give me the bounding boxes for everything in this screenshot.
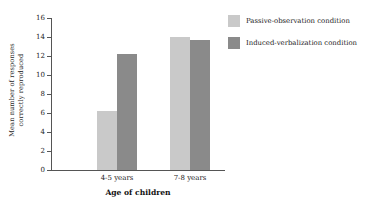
y-tick-label: 6 — [41, 109, 45, 117]
x-tick-label: 7-8 years — [174, 174, 207, 182]
y-tick-label: 0 — [41, 166, 45, 174]
legend-item[interactable]: Passive-observation condition — [228, 14, 376, 27]
y-tick-label: 2 — [41, 147, 45, 155]
y-tick-label: 16 — [36, 14, 45, 22]
y-tick-mark — [47, 75, 51, 76]
bar — [170, 37, 190, 170]
y-tick-label: 12 — [36, 52, 45, 60]
bar — [117, 54, 137, 170]
legend-swatch — [228, 15, 240, 27]
y-tick-mark — [47, 151, 51, 152]
x-axis-line — [51, 170, 225, 171]
y-tick-mark — [47, 132, 51, 133]
legend-item[interactable]: Induced-verbalization condition — [228, 36, 376, 49]
y-tick-mark — [47, 18, 51, 19]
bar — [97, 111, 117, 170]
y-axis-line — [51, 18, 52, 170]
y-tick-label: 14 — [36, 33, 45, 41]
legend-swatch — [228, 37, 240, 49]
y-tick-label: 8 — [41, 90, 45, 98]
y-axis-title-line-2: correctly reproduced — [17, 43, 26, 137]
y-tick-mark — [47, 113, 51, 114]
y-axis-title: Mean number of responses correctly repro… — [0, 0, 34, 180]
y-tick-mark — [47, 37, 51, 38]
y-tick-mark — [47, 94, 51, 95]
y-tick-mark — [47, 170, 51, 171]
y-tick-mark — [47, 56, 51, 57]
legend-label: Induced-verbalization condition — [246, 39, 357, 47]
y-axis-title-line-1: Mean number of responses — [8, 43, 16, 137]
legend: Passive-observation conditionInduced-ver… — [228, 14, 376, 58]
y-tick-label: 4 — [41, 128, 45, 136]
x-tick-label: 4-5 years — [101, 174, 134, 182]
plot-area: 0246810121416 4-5 years7-8 years — [51, 18, 225, 170]
bar-chart-figure: Mean number of responses correctly repro… — [0, 0, 376, 211]
bar — [190, 40, 210, 170]
x-axis-title: Age of children — [51, 188, 225, 197]
legend-label: Passive-observation condition — [246, 17, 350, 25]
y-tick-label: 10 — [36, 71, 45, 79]
